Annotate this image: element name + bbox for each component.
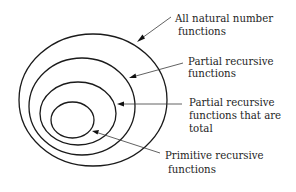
label-line: total	[189, 123, 213, 134]
label-line: Partial recursive	[188, 56, 274, 67]
ellipse-primitive-recursive-functions	[51, 102, 94, 138]
label-all-natural-number-functions: All natural number functions	[174, 13, 273, 37]
label-primitive-recursive-functions: Primitive recursive functions	[165, 150, 264, 175]
label-line: functions	[168, 164, 216, 175]
ellipse-all-natural-number-functions	[19, 34, 167, 166]
label-line: Partial recursive	[189, 97, 275, 108]
arrow-icon	[137, 17, 171, 42]
label-line: Primitive recursive	[165, 150, 264, 161]
label-line: functions that are	[189, 110, 281, 121]
arrow-icon	[117, 102, 182, 107]
label-partial-recursive-total-functions: Partial recursive functions that are tot…	[189, 97, 281, 134]
ellipse-partial-recursive-functions	[29, 58, 135, 155]
label-line: All natural number	[174, 13, 273, 24]
label-partial-recursive-functions: Partial recursive functions	[188, 56, 274, 79]
nested-sets-diagram: All natural number functions Partial rec…	[0, 0, 296, 192]
ellipse-partial-recursive-total-functions	[40, 82, 116, 145]
label-line: functions	[178, 26, 226, 37]
label-line: functions	[188, 68, 236, 79]
